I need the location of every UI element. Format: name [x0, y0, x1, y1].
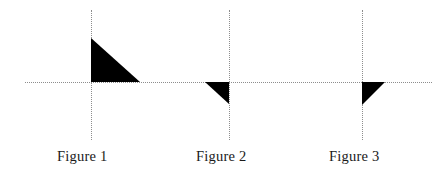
vertical-axis-figure-2 [229, 10, 230, 140]
triangle-figure-3 [362, 82, 385, 105]
caption-figure-1: Figure 1 [57, 148, 107, 165]
caption-figure-3: Figure 3 [329, 148, 379, 165]
triangle-shape-figure-1 [91, 38, 140, 82]
caption-figure-2: Figure 2 [196, 148, 246, 165]
vertical-axis-figure-3 [362, 10, 363, 140]
triangle-figure-1 [91, 38, 140, 82]
triangle-shape-figure-2 [205, 82, 229, 104]
triangle-figure-2 [205, 82, 229, 104]
figure-stage: Figure 1 Figure 2 Figure 3 [0, 0, 448, 179]
triangle-shape-figure-3 [362, 82, 385, 105]
